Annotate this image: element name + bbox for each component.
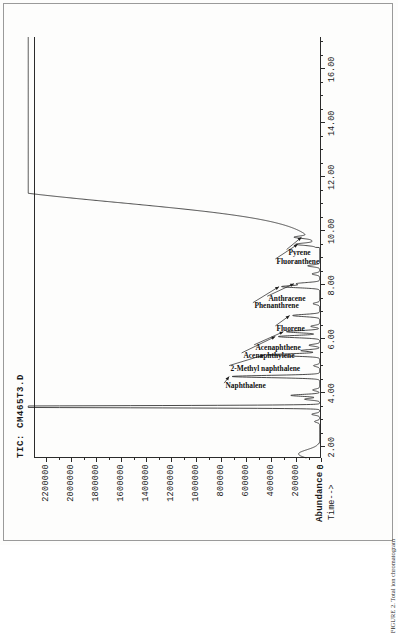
leader-arrowhead bbox=[275, 287, 279, 290]
leader-arrowhead bbox=[286, 316, 290, 320]
x-tick bbox=[321, 392, 325, 393]
x-tick-minor bbox=[321, 82, 323, 83]
y-tick-label: 400000 bbox=[266, 464, 276, 496]
x-tick-minor bbox=[321, 136, 323, 137]
x-tick-minor bbox=[321, 149, 323, 150]
y-tick-label: 1600000 bbox=[116, 464, 126, 502]
y-tick-minor bbox=[309, 458, 310, 460]
x-tick-minor bbox=[321, 244, 323, 245]
chart-title: TIC: CM465T3.D bbox=[16, 374, 26, 458]
y-tick-label: 200000 bbox=[291, 464, 301, 496]
y-tick-label: 1400000 bbox=[141, 464, 151, 502]
y-tick-label: 2000000 bbox=[66, 464, 76, 502]
peak-label: Acenaphthene bbox=[256, 342, 301, 351]
x-tick-label: 12.00 bbox=[327, 165, 337, 191]
x-tick-label: 2.00 bbox=[327, 437, 337, 457]
y-tick-label: 1200000 bbox=[166, 464, 176, 502]
peak-label: Fluoranthene bbox=[277, 257, 320, 266]
x-tick-minor bbox=[321, 325, 323, 326]
y-tick-label: 1800000 bbox=[91, 464, 101, 502]
x-tick-label: 10.00 bbox=[327, 219, 337, 245]
y-tick-minor bbox=[84, 458, 85, 460]
x-tick bbox=[321, 338, 325, 339]
x-tick bbox=[321, 176, 325, 177]
x-axis-title: Time--> bbox=[327, 484, 337, 520]
y-tick bbox=[96, 458, 97, 462]
x-tick-minor bbox=[321, 41, 323, 42]
x-tick-minor bbox=[321, 55, 323, 56]
x-tick-minor bbox=[321, 419, 323, 420]
y-tick bbox=[296, 458, 297, 462]
chromatogram-trace bbox=[34, 37, 321, 458]
y-tick bbox=[271, 458, 272, 462]
y-tick-minor bbox=[184, 458, 185, 460]
y-tick bbox=[46, 458, 47, 462]
x-tick-minor bbox=[321, 379, 323, 380]
y-tick-minor bbox=[209, 458, 210, 460]
y-tick-minor bbox=[109, 458, 110, 460]
chromatogram-figure: TIC: CM465T3.D Abundance Time--> 0200000… bbox=[24, 22, 374, 522]
y-tick-minor bbox=[234, 458, 235, 460]
x-tick-minor bbox=[321, 406, 323, 407]
x-tick bbox=[321, 122, 325, 123]
peak-label: Acenaphthylene bbox=[243, 350, 294, 359]
y-origin-label: 0 bbox=[316, 464, 326, 469]
x-tick-minor bbox=[321, 311, 323, 312]
y-tick-label: 800000 bbox=[216, 464, 226, 496]
x-tick-minor bbox=[321, 433, 323, 434]
x-tick-minor bbox=[321, 109, 323, 110]
x-tick-minor bbox=[321, 217, 323, 218]
x-tick-minor bbox=[321, 190, 323, 191]
x-tick-label: 14.00 bbox=[327, 111, 337, 137]
y-tick-minor bbox=[159, 458, 160, 460]
y-tick-minor bbox=[134, 458, 135, 460]
y-tick bbox=[146, 458, 147, 462]
x-tick bbox=[321, 230, 325, 231]
figure-caption: FIGURE 2. Total ion chromatogram bbox=[389, 539, 396, 633]
y-tick-label: 600000 bbox=[241, 464, 251, 496]
y-tick bbox=[221, 458, 222, 462]
y-tick-minor bbox=[259, 458, 260, 460]
y-tick bbox=[321, 458, 322, 462]
peak-label: Naphthalene bbox=[226, 381, 266, 390]
y-tick bbox=[71, 458, 72, 462]
x-tick bbox=[321, 68, 325, 69]
x-tick-minor bbox=[321, 271, 323, 272]
peak-label: Fluorene bbox=[277, 323, 305, 332]
y-tick-label: 2200000 bbox=[41, 464, 51, 502]
x-tick bbox=[321, 446, 325, 447]
x-tick-label: 8.00 bbox=[327, 275, 337, 295]
x-tick-minor bbox=[321, 365, 323, 366]
y-tick bbox=[196, 458, 197, 462]
x-tick-minor bbox=[321, 203, 323, 204]
x-tick-label: 4.00 bbox=[327, 383, 337, 403]
x-tick-minor bbox=[321, 163, 323, 164]
y-tick bbox=[121, 458, 122, 462]
y-axis-title: Abundance bbox=[315, 472, 325, 522]
y-tick-minor bbox=[59, 458, 60, 460]
y-tick bbox=[171, 458, 172, 462]
y-tick-minor bbox=[284, 458, 285, 460]
peak-label: 2-Methyl naphthalene bbox=[231, 363, 301, 372]
x-tick bbox=[321, 284, 325, 285]
y-tick bbox=[246, 458, 247, 462]
x-tick-label: 16.00 bbox=[327, 57, 337, 83]
x-tick-minor bbox=[321, 298, 323, 299]
tic-signal-path bbox=[28, 37, 319, 458]
x-tick-label: 6.00 bbox=[327, 329, 337, 349]
x-tick-minor bbox=[321, 352, 323, 353]
x-tick-minor bbox=[321, 257, 323, 258]
y-tick-label: 1000000 bbox=[191, 464, 201, 502]
x-tick-minor bbox=[321, 95, 323, 96]
peak-label: Pyrene bbox=[288, 247, 310, 256]
peak-label: Anthracene bbox=[269, 294, 306, 303]
